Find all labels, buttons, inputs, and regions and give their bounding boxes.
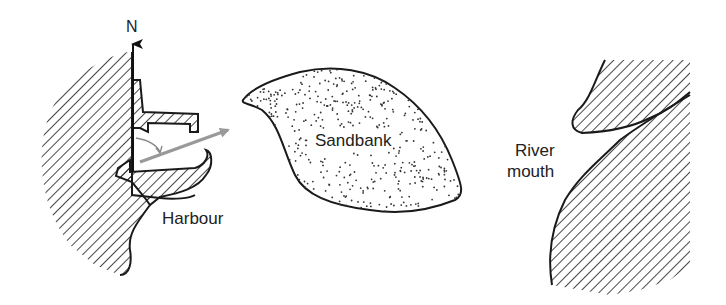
stipple-dot: [447, 159, 449, 161]
stipple-dot: [401, 196, 403, 198]
stipple-dot: [273, 115, 275, 117]
stipple-dot: [260, 100, 262, 102]
stipple-dot: [438, 166, 440, 168]
stipple-dot: [302, 102, 304, 104]
stipple-dot: [390, 203, 392, 205]
stipple-dot: [273, 94, 275, 96]
stipple-dot: [250, 99, 252, 101]
stipple-dot: [298, 179, 300, 181]
stipple-dot: [372, 117, 374, 119]
stipple-dot: [343, 126, 345, 128]
stipple-dot: [274, 124, 276, 126]
stipple-dot: [399, 147, 401, 149]
stipple-dot: [387, 100, 389, 102]
stipple-dot: [389, 90, 391, 92]
stipple-dot: [260, 91, 262, 93]
stipple-dot: [373, 165, 375, 167]
stipple-dot: [399, 170, 401, 172]
stipple-dot: [384, 126, 386, 128]
stipple-dot: [359, 100, 361, 102]
stipple-dot: [324, 158, 326, 160]
stipple-dot: [444, 186, 446, 188]
stipple-dot: [363, 201, 365, 203]
stipple-dot: [444, 174, 446, 176]
stipple-dot: [277, 92, 279, 94]
harbour-diagram: N Harbour Sandbank River mouth: [0, 0, 726, 305]
stipple-dot: [369, 95, 371, 97]
stipple-dot: [341, 123, 343, 125]
stipple-dot: [422, 178, 424, 180]
stipple-dot: [378, 165, 380, 167]
stipple-dot: [418, 205, 420, 207]
stipple-dot: [288, 145, 290, 147]
stipple-dot: [251, 100, 253, 102]
stipple-dot: [345, 205, 347, 207]
stipple-dot: [428, 169, 430, 171]
stipple-dot: [383, 102, 385, 104]
stipple-dot: [277, 94, 279, 96]
stipple-dot: [341, 191, 343, 193]
stipple-dot: [359, 122, 361, 124]
stipple-dot: [392, 91, 394, 93]
stipple-dot: [341, 93, 343, 95]
stipple-dot: [313, 188, 315, 190]
stipple-dot: [357, 154, 359, 156]
stipple-dot: [308, 159, 310, 161]
stipple-dot: [263, 98, 265, 100]
stipple-dot: [325, 98, 327, 100]
stipple-dot: [345, 101, 347, 103]
stipple-dot: [341, 78, 343, 80]
stipple-dot: [275, 111, 277, 113]
stipple-dot: [352, 111, 354, 113]
stipple-dot: [357, 106, 359, 108]
stipple-dot: [310, 162, 312, 164]
stipple-dot: [394, 163, 396, 165]
stipple-dot: [348, 110, 350, 112]
stipple-dot: [339, 201, 341, 203]
stipple-dot: [367, 186, 369, 188]
stipple-dot: [269, 100, 271, 102]
stipple-dot: [400, 204, 402, 206]
stipple-dot: [358, 102, 360, 104]
stipple-dot: [343, 195, 345, 197]
stipple-dot: [423, 158, 425, 160]
stipple-dot: [398, 180, 400, 182]
stipple-dot: [431, 199, 433, 201]
stipple-dot: [268, 91, 270, 93]
stipple-dot: [443, 169, 445, 171]
stipple-dot: [274, 105, 276, 107]
sandbank-label: Sandbank: [315, 131, 392, 150]
stipple-dot: [398, 188, 400, 190]
stipple-dot: [381, 80, 383, 82]
stipple-dot: [444, 146, 446, 148]
stipple-dot: [384, 164, 386, 166]
stipple-dot: [394, 174, 396, 176]
stipple-dot: [422, 150, 424, 152]
stipple-dot: [352, 89, 354, 91]
stipple-dot: [339, 166, 341, 168]
stipple-dot: [426, 177, 428, 179]
stipple-dot: [339, 184, 341, 186]
stipple-dot: [309, 98, 311, 100]
stipple-dot: [384, 210, 386, 212]
stipple-dot: [246, 96, 248, 98]
stipple-dot: [293, 119, 295, 121]
stipple-dot: [404, 115, 406, 117]
stipple-dot: [415, 203, 417, 205]
stipple-dot: [270, 107, 272, 109]
stipple-dot: [295, 160, 297, 162]
stipple-dot: [453, 179, 455, 181]
stipple-dot: [362, 108, 364, 110]
stipple-dot: [380, 103, 382, 105]
harbour-label: Harbour: [162, 209, 224, 228]
stipple-dot: [438, 173, 440, 175]
stipple-dot: [388, 152, 390, 154]
stipple-dot: [384, 108, 386, 110]
stipple-dot: [412, 119, 414, 121]
river-bank-east: [550, 60, 690, 295]
stipple-dot: [323, 127, 325, 129]
stipple-dot: [375, 172, 377, 174]
stipple-dot: [309, 85, 311, 87]
stipple-dot: [414, 161, 416, 163]
stipple-dot: [262, 88, 264, 90]
